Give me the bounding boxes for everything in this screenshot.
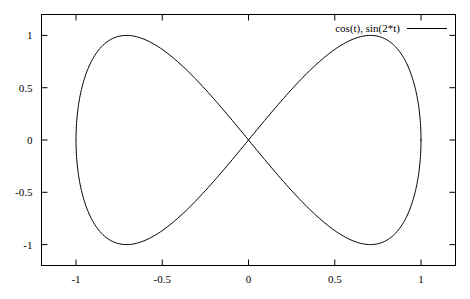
x-tick-label-0: -1 — [71, 273, 80, 285]
x-tick-label-4: 1 — [418, 273, 424, 285]
plot-canvas: -1-0.500.51 10.50-0.5-1 cos(t), sin(2*t) — [0, 0, 470, 299]
y-axis-tick-labels: 10.50-0.5-1 — [15, 29, 33, 250]
legend-label-0: cos(t), sin(2*t) — [335, 22, 400, 35]
x-axis-tick-labels: -1-0.500.51 — [71, 273, 423, 285]
y-tick-label-0: 1 — [27, 29, 33, 41]
y-tick-label-2: 0 — [27, 134, 33, 146]
x-tick-label-3: 0.5 — [328, 273, 342, 285]
x-tick-label-1: -0.5 — [154, 273, 172, 285]
x-tick-label-2: 0 — [246, 273, 252, 285]
y-tick-label-4: -1 — [23, 239, 32, 251]
y-tick-label-3: -0.5 — [15, 186, 33, 198]
y-tick-label-1: 0.5 — [19, 82, 33, 94]
chart-svg: -1-0.500.51 10.50-0.5-1 cos(t), sin(2*t) — [0, 0, 470, 299]
